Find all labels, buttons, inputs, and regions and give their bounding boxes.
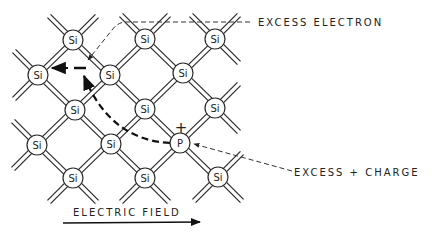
lattice-diagram: SiSiSiSiSiSiSiSiSiSiPSiSiSiSi + EXCESS E… xyxy=(0,0,448,238)
silicon-atom-label: Si xyxy=(178,68,187,79)
silicon-atom-label: Si xyxy=(32,140,41,151)
plus-sign: + xyxy=(175,119,188,137)
excess-charge-label: EXCESS + CHARGE xyxy=(294,167,420,178)
silicon-atom-label: Si xyxy=(140,173,149,184)
silicon-atom-label: Si xyxy=(210,103,219,114)
silicon-atom-label: Si xyxy=(213,172,222,183)
excess-electron-label: EXCESS ELECTRON xyxy=(258,17,383,28)
silicon-atom-label: Si xyxy=(140,34,149,45)
silicon-atom-label: Si xyxy=(105,70,114,81)
electric-field-arrow xyxy=(63,222,200,223)
silicon-atom-label: Si xyxy=(68,35,77,46)
silicon-atom-label: Si xyxy=(68,173,77,184)
silicon-atom-label: Si xyxy=(33,70,42,81)
excess-charge-leader xyxy=(194,144,292,171)
excess-electron-leader xyxy=(88,22,250,60)
silicon-atom-label: Si xyxy=(210,34,219,45)
silicon-atom-label: Si xyxy=(106,139,115,150)
silicon-atom-label: Si xyxy=(140,104,149,115)
electric-field-label: ELECTRIC FIELD xyxy=(73,207,181,218)
silicon-atom-label: Si xyxy=(70,105,79,116)
phosphorus-atom-label: P xyxy=(177,138,183,149)
